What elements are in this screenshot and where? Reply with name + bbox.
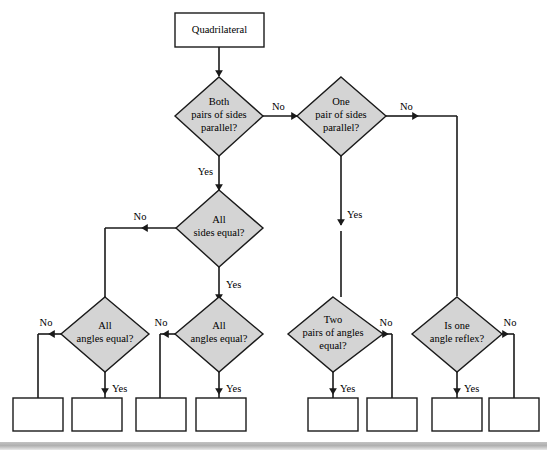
node-two-pairs-line-1: Two [324, 314, 343, 325]
footer-bar [0, 442, 547, 450]
node-reflex-line-1: Is one [444, 320, 470, 331]
node-result-5[interactable] [308, 398, 358, 431]
edge-label-both-pairs-yes: Yes [198, 166, 213, 177]
node-decision-all-angles-equal-mid[interactable]: All angles equal? [175, 297, 263, 372]
edge-one-pair-no [386, 116, 457, 296]
edge-label-reflex-yes: Yes [464, 383, 479, 394]
edge-label-angles-left-yes: Yes [112, 383, 127, 394]
flowchart-page: One pair parallel --> All sides equal --… [0, 0, 547, 450]
node-decision-both-pairs-parallel[interactable]: Both pairs of sides parallel? [175, 77, 263, 156]
node-two-pairs-line-2: pairs of angles [302, 327, 363, 338]
edge-label-all-sides-no: No [134, 211, 147, 222]
node-both-pairs-line-3: parallel? [201, 122, 237, 133]
node-all-sides-line-2: sides equal? [193, 227, 244, 238]
node-decision-all-angles-equal-left[interactable]: All angles equal? [61, 297, 149, 372]
edge-two-pairs-no [383, 334, 392, 398]
edge-label-all-sides-yes: Yes [226, 279, 241, 290]
edge-label-reflex-no: No [504, 317, 517, 328]
edge-label-two-pairs-no: No [380, 317, 393, 328]
node-one-pair-line-2: pair of sides [315, 109, 366, 120]
node-result-4[interactable] [196, 398, 246, 431]
edge-reflex-no [502, 334, 514, 398]
node-all-sides-line-1: All [212, 214, 226, 225]
edge-label-two-pairs-yes: Yes [340, 383, 355, 394]
node-reflex-line-2: angle reflex? [430, 333, 485, 344]
node-result-2[interactable] [72, 398, 122, 431]
node-result-1[interactable] [13, 398, 63, 431]
node-start-quadrilateral[interactable]: Quadrilateral [175, 13, 264, 47]
node-angles-mid-line-2: angles equal? [191, 333, 248, 344]
flowchart-canvas: One pair parallel --> All sides equal --… [0, 0, 547, 450]
node-start-label: Quadrilateral [192, 24, 247, 35]
node-both-pairs-line-2: pairs of sides [191, 109, 246, 120]
node-result-7[interactable] [432, 398, 482, 431]
node-one-pair-line-1: One [332, 96, 350, 107]
edge-label-angles-left-no: No [40, 317, 53, 328]
node-angles-mid-line-1: All [212, 320, 226, 331]
node-both-pairs-line-1: Both [209, 96, 230, 107]
node-two-pairs-line-3: equal? [319, 340, 347, 351]
node-decision-all-sides-equal[interactable]: All sides equal? [176, 190, 263, 267]
node-result-8[interactable] [489, 398, 539, 431]
node-angles-left-line-1: All [98, 320, 112, 331]
node-result-3[interactable] [136, 398, 186, 431]
node-one-pair-line-3: parallel? [323, 122, 359, 133]
edge-label-angles-mid-yes: Yes [226, 383, 241, 394]
edge-label-both-pairs-no: No [272, 101, 285, 112]
edge-all-sides-no [105, 228, 176, 297]
node-angles-left-line-2: angles equal? [77, 333, 134, 344]
edge-angles-mid-no [160, 334, 180, 398]
node-decision-two-pairs-angles-equal[interactable]: Two pairs of angles equal? [288, 297, 383, 372]
node-decision-one-angle-reflex[interactable]: Is one angle reflex? [412, 297, 502, 372]
edge-angles-left-no [38, 334, 66, 398]
edge-label-angles-mid-no: No [155, 317, 168, 328]
node-decision-one-pair-parallel[interactable]: One pair of sides parallel? [297, 77, 386, 156]
edge-label-one-pair-yes: Yes [347, 209, 362, 220]
node-result-6[interactable] [367, 398, 417, 431]
edge-label-one-pair-no: No [400, 101, 413, 112]
